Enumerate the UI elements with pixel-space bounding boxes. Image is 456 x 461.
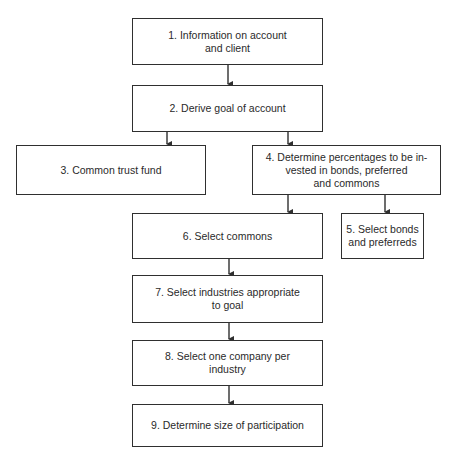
- node-9-label: 9. Determine size of participation: [151, 419, 304, 432]
- node-3-label: 3. Common trust fund: [61, 164, 162, 177]
- node-6-select-commons: 6. Select commons: [132, 213, 323, 259]
- node-8-label: 8. Select one company per industry: [165, 350, 290, 376]
- node-4-determine-percentages: 4. Determine percentages to be in- veste…: [252, 145, 441, 195]
- node-5-label: 5. Select bonds and preferreds: [346, 223, 418, 249]
- node-6-label: 6. Select commons: [183, 230, 272, 243]
- node-2-derive-goal: 2. Derive goal of account: [132, 85, 323, 132]
- node-2-label: 2. Derive goal of account: [169, 102, 285, 115]
- node-1-label: 1. Information on account and client: [168, 29, 287, 55]
- node-1-information-on-account: 1. Information on account and client: [132, 18, 323, 65]
- node-7-select-industries: 7. Select industries appropriate to goal: [132, 275, 323, 323]
- node-3-common-trust-fund: 3. Common trust fund: [16, 145, 206, 195]
- node-7-label: 7. Select industries appropriate to goal: [155, 286, 300, 312]
- node-4-label: 4. Determine percentages to be in- veste…: [266, 151, 428, 190]
- node-8-select-one-company: 8. Select one company per industry: [132, 340, 323, 386]
- node-9-determine-size: 9. Determine size of participation: [132, 404, 323, 447]
- node-5-select-bonds: 5. Select bonds and preferreds: [341, 213, 424, 259]
